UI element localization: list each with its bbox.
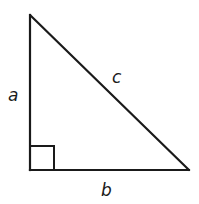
- label-b: b: [101, 180, 112, 200]
- triangle-figure: a c b: [0, 0, 199, 204]
- label-a: a: [8, 85, 18, 105]
- label-c: c: [112, 67, 122, 87]
- right-angle-marker: [30, 146, 54, 170]
- right-triangle-diagram: a c b: [0, 0, 199, 204]
